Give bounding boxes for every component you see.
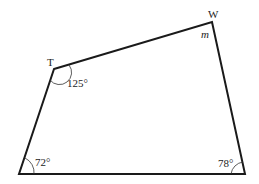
angle-label-bottom-left: 72° (35, 156, 50, 168)
angle-label-w: m (201, 28, 209, 40)
quadrilateral-shape (19, 22, 245, 174)
angle-label-t: 125° (67, 77, 88, 89)
vertex-label-t: T (47, 56, 54, 68)
quadrilateral-diagram: T W m 125° 72° 78° (0, 0, 259, 184)
angle-label-bottom-right: 78° (218, 157, 233, 169)
vertex-label-w: W (208, 8, 219, 20)
angle-arc-bottom-left (25, 158, 34, 174)
diagram-canvas: T W m 125° 72° 78° (0, 0, 259, 184)
